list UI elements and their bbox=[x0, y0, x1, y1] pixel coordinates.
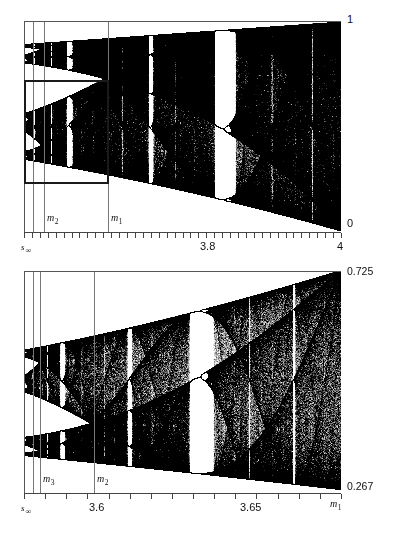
axis-tick bbox=[159, 233, 160, 238]
axis-tick bbox=[64, 233, 65, 238]
axis-tick bbox=[111, 233, 112, 238]
bottom-panel-m3-subscript: 3 bbox=[50, 478, 54, 487]
top-panel-sinf-subscript: ∞ bbox=[25, 246, 32, 255]
top-panel-m2-label: m2 bbox=[47, 213, 58, 226]
axis-tick bbox=[87, 494, 88, 499]
bottom-panel-m2-line bbox=[94, 272, 95, 493]
bottom-panel-sinf-letter: s bbox=[21, 503, 25, 513]
top-panel-x-mid-label: 3.8 bbox=[200, 241, 215, 252]
axis-tick bbox=[286, 233, 287, 238]
axis-tick bbox=[238, 233, 239, 238]
axis-tick bbox=[56, 233, 57, 238]
axis-tick bbox=[48, 233, 49, 238]
top-panel-y-min-label: 0 bbox=[347, 218, 353, 229]
axis-tick bbox=[40, 233, 41, 238]
bottom-panel-m3-line bbox=[40, 272, 41, 493]
axis-tick bbox=[175, 233, 176, 238]
axis-tick bbox=[130, 494, 131, 499]
axis-tick bbox=[193, 494, 194, 499]
top-panel-sinf-letter: s bbox=[21, 242, 25, 252]
axis-tick bbox=[87, 233, 88, 238]
axis-tick bbox=[333, 233, 334, 238]
top-panel: 1 0 m2 m1 s∞ 3.8 4 bbox=[0, 0, 401, 265]
axis-tick bbox=[79, 233, 80, 238]
axis-tick bbox=[45, 494, 46, 499]
axis-tick bbox=[293, 233, 294, 238]
axis-tick bbox=[167, 233, 168, 238]
axis-tick bbox=[301, 233, 302, 238]
axis-tick bbox=[172, 494, 173, 499]
axis-tick bbox=[341, 233, 342, 238]
axis-tick bbox=[320, 494, 321, 499]
axis-tick bbox=[222, 233, 223, 238]
top-panel-m1-label: m1 bbox=[111, 213, 122, 226]
axis-tick bbox=[109, 494, 110, 499]
bottom-panel-m3-label: m3 bbox=[43, 474, 54, 487]
top-panel-y-max-label: 1 bbox=[347, 14, 353, 25]
axis-tick bbox=[151, 233, 152, 238]
bottom-panel-m1-subscript: 1 bbox=[337, 503, 341, 512]
axis-tick bbox=[143, 233, 144, 238]
axis-tick bbox=[190, 233, 191, 238]
axis-tick bbox=[135, 233, 136, 238]
axis-tick bbox=[254, 233, 255, 238]
bottom-panel-x-axis bbox=[24, 493, 341, 494]
axis-tick bbox=[127, 233, 128, 238]
axis-tick bbox=[317, 233, 318, 238]
axis-tick bbox=[214, 494, 215, 499]
axis-tick bbox=[309, 233, 310, 238]
axis-tick bbox=[278, 494, 279, 499]
top-panel-x-max-label: 4 bbox=[337, 241, 343, 252]
top-panel-m1-subscript: 1 bbox=[118, 217, 122, 226]
axis-tick bbox=[262, 233, 263, 238]
axis-tick bbox=[103, 233, 104, 238]
bottom-panel: 0.725 0.267 m3 m2 s∞ 3.6 3.65 m1 bbox=[0, 265, 401, 538]
bottom-panel-x-max-label: m1 bbox=[330, 499, 341, 512]
bottom-panel-m2-label: m2 bbox=[97, 474, 108, 487]
axis-tick bbox=[214, 233, 215, 238]
axis-tick bbox=[32, 233, 33, 238]
axis-tick bbox=[246, 233, 247, 238]
axis-tick bbox=[95, 233, 96, 238]
axis-tick bbox=[256, 494, 257, 499]
top-panel-sinf-label: s∞ bbox=[21, 243, 31, 255]
bottom-panel-sinf-label: s∞ bbox=[21, 504, 31, 516]
axis-tick bbox=[24, 494, 25, 499]
axis-tick bbox=[325, 233, 326, 238]
axis-tick bbox=[198, 233, 199, 238]
top-panel-m2-subscript: 2 bbox=[54, 217, 58, 226]
bottom-panel-canvas bbox=[25, 272, 341, 493]
bottom-panel-x-mid-label: 3.6 bbox=[89, 502, 104, 513]
top-panel-zoom-box bbox=[24, 80, 109, 184]
axis-tick bbox=[72, 233, 73, 238]
bottom-panel-m2-subscript: 2 bbox=[104, 478, 108, 487]
bottom-panel-sinf-line bbox=[33, 272, 34, 493]
axis-tick bbox=[206, 233, 207, 238]
bottom-panel-x-mid2-label: 3.65 bbox=[240, 502, 261, 513]
bottom-panel-y-max-label: 0.725 bbox=[347, 266, 373, 277]
axis-tick bbox=[270, 233, 271, 238]
bottom-panel-plot-area bbox=[25, 272, 341, 493]
bottom-panel-y-min-label: 0.267 bbox=[347, 481, 373, 492]
axis-tick bbox=[230, 233, 231, 238]
axis-tick bbox=[119, 233, 120, 238]
axis-tick bbox=[183, 233, 184, 238]
axis-tick bbox=[278, 233, 279, 238]
bottom-panel-sinf-subscript: ∞ bbox=[25, 507, 32, 516]
axis-tick bbox=[151, 494, 152, 499]
axis-tick bbox=[299, 494, 300, 499]
axis-tick bbox=[66, 494, 67, 499]
axis-tick bbox=[24, 233, 25, 238]
axis-tick bbox=[235, 494, 236, 499]
bifurcation-figure: 1 0 m2 m1 s∞ 3.8 4 0.725 0.267 m3 m bbox=[0, 0, 401, 538]
